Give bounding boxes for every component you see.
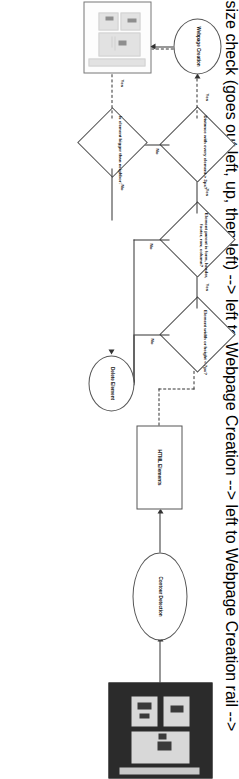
edge-html-to-size-v (159, 388, 160, 389)
edge-label-size-no: No (150, 337, 155, 345)
edge-label-parent-no: No (149, 242, 154, 250)
node-contour-detection: Contour Detection (133, 552, 160, 640)
node-html-elements: HTML Elements (137, 425, 160, 509)
edge-label-neighbor-no: No (120, 183, 125, 191)
arrowhead-to-webpage (151, 43, 156, 49)
node-label: HTML Elements (157, 449, 159, 485)
node-label: Delete Element (109, 356, 115, 410)
node-neighbor-check: Is element bigger than neighbor? (77, 107, 148, 178)
edge-parent-no-v (134, 239, 160, 240)
edge-label-neighbor-yes: Yes (120, 78, 125, 88)
edge-label-distance-no: No (155, 147, 160, 155)
node-delete-element: Delete Element (89, 355, 135, 411)
node-label: Is element bigger than neighbor? (118, 111, 123, 189)
screenshot-thumbnail (109, 682, 160, 778)
arrowhead-to-delete-element (109, 349, 115, 354)
webpage-mockup-thumbnail (84, 1, 152, 73)
edge-html-to-size-h1 (159, 388, 160, 425)
node-label: Contour Detection (157, 553, 159, 639)
edge-parent-no-h (134, 239, 135, 383)
flowchart-canvas: Contour Detection HTML Elements size che… (81, 0, 160, 779)
edge-size-no-v (135, 334, 160, 335)
edge-neighbor-no (112, 168, 113, 220)
